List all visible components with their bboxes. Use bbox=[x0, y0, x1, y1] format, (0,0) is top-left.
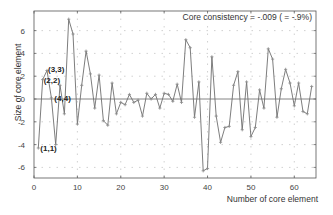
plus-marker-icon bbox=[163, 92, 166, 95]
plus-marker-icon bbox=[128, 93, 131, 96]
plus-marker-icon bbox=[184, 38, 187, 41]
plus-marker-icon bbox=[284, 68, 287, 71]
plus-marker-icon bbox=[84, 50, 87, 53]
x-tick-label: 40 bbox=[203, 183, 212, 192]
plus-marker-icon bbox=[197, 80, 200, 83]
plus-marker-icon bbox=[110, 81, 113, 84]
plus-marker-icon bbox=[124, 103, 127, 106]
plus-marker-icon bbox=[119, 101, 122, 104]
plus-marker-icon bbox=[228, 125, 231, 128]
plus-marker-icon bbox=[158, 107, 161, 110]
plus-marker-icon bbox=[236, 70, 239, 73]
x-tick-label: 20 bbox=[116, 183, 125, 192]
plus-marker-icon bbox=[93, 107, 96, 110]
x-tick-label: 50 bbox=[246, 183, 255, 192]
plus-marker-icon bbox=[97, 73, 100, 76]
plus-marker-icon bbox=[180, 101, 183, 104]
y-axis-label: Size of core element bbox=[13, 43, 23, 121]
point-label: (3,3) bbox=[48, 65, 65, 74]
plus-marker-icon bbox=[301, 110, 304, 113]
plus-marker-icon bbox=[280, 87, 283, 90]
plus-marker-icon bbox=[241, 128, 244, 131]
y-tick-label: 6 bbox=[21, 27, 26, 36]
plus-marker-icon bbox=[293, 104, 296, 107]
plus-marker-icon bbox=[89, 72, 92, 75]
y-tick-label: -6 bbox=[18, 163, 26, 172]
plus-marker-icon bbox=[275, 116, 278, 119]
plus-marker-icon bbox=[219, 141, 222, 144]
plus-marker-icon bbox=[67, 18, 70, 21]
plus-marker-icon bbox=[141, 115, 144, 118]
data-series bbox=[37, 18, 314, 173]
plus-marker-icon bbox=[245, 80, 248, 83]
plus-marker-icon bbox=[271, 58, 274, 61]
plus-marker-icon bbox=[306, 112, 309, 115]
point-label: (1,1) bbox=[40, 144, 57, 153]
plus-marker-icon bbox=[262, 107, 265, 110]
chart: (1,1)(2,2)(3,3)(4,4) -6-4-20246010203040… bbox=[0, 0, 333, 215]
core-consistency-annotation: Core consistency = -.009 ( = -.9%) bbox=[183, 12, 313, 22]
plus-marker-icon bbox=[232, 84, 235, 87]
plus-marker-icon bbox=[76, 122, 79, 125]
plus-marker-icon bbox=[254, 126, 257, 129]
y-tick-label: -4 bbox=[18, 141, 26, 150]
plus-marker-icon bbox=[206, 167, 209, 170]
plus-marker-icon bbox=[115, 112, 118, 115]
x-axis-label: Number of core element bbox=[227, 194, 319, 204]
plus-marker-icon bbox=[288, 81, 291, 84]
x-tick-label: 10 bbox=[73, 183, 82, 192]
plus-marker-icon bbox=[63, 112, 66, 115]
plus-marker-icon bbox=[210, 55, 213, 58]
plus-marker-icon bbox=[193, 116, 196, 119]
plus-marker-icon bbox=[223, 126, 226, 129]
plus-marker-icon bbox=[176, 83, 179, 86]
plus-marker-icon bbox=[189, 46, 192, 49]
x-tick-label: 30 bbox=[160, 183, 169, 192]
plus-marker-icon bbox=[71, 32, 74, 35]
point-label: (4,4) bbox=[54, 94, 71, 103]
plus-marker-icon bbox=[258, 88, 261, 91]
x-tick-label: 60 bbox=[290, 183, 299, 192]
x-tick-label: 0 bbox=[32, 183, 37, 192]
plus-marker-icon bbox=[80, 84, 83, 87]
plus-marker-icon bbox=[267, 47, 270, 50]
plus-marker-icon bbox=[249, 135, 252, 138]
point-label: (2,2) bbox=[44, 76, 61, 85]
plus-marker-icon bbox=[297, 81, 300, 84]
plus-marker-icon bbox=[215, 115, 218, 118]
plus-marker-icon bbox=[310, 85, 313, 88]
series-line bbox=[38, 19, 311, 171]
